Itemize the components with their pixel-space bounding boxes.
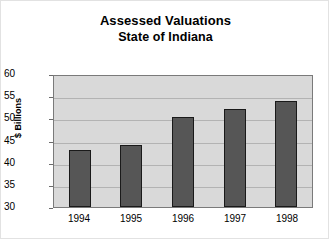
bar <box>120 145 142 207</box>
bar-series <box>54 76 312 207</box>
x-axis-tick-label: 1998 <box>257 213 317 224</box>
x-axis-tick-label: 1997 <box>205 213 265 224</box>
bar <box>224 109 246 207</box>
bar-slot <box>209 76 261 207</box>
chart-title: Assessed Valuations State of Indiana <box>1 13 330 45</box>
y-axis-tick-label: 50 <box>0 112 15 123</box>
y-axis-tick-label: 40 <box>0 157 15 168</box>
x-axis-tick-label: 1994 <box>49 213 109 224</box>
y-axis-tick-label: 55 <box>0 90 15 101</box>
x-axis-tick-label: 1996 <box>153 213 213 224</box>
y-axis-tick-label: 35 <box>0 179 15 190</box>
x-axis-tick-label: 1995 <box>101 213 161 224</box>
bar <box>69 150 91 207</box>
chart-title-line2: State of Indiana <box>1 29 330 45</box>
bar <box>172 117 194 207</box>
chart-title-line1: Assessed Valuations <box>1 13 330 29</box>
bar-slot <box>54 76 106 207</box>
bar <box>275 101 297 207</box>
y-axis-tick-label: 30 <box>0 201 15 212</box>
y-axis-tick-label: 60 <box>0 68 15 79</box>
plot-area <box>53 75 313 208</box>
bar-slot <box>260 76 312 207</box>
y-axis-tick-mark <box>49 208 53 209</box>
bar-slot <box>106 76 158 207</box>
y-axis-tick-label: 45 <box>0 135 15 146</box>
chart-frame: Assessed Valuations State of Indiana $ B… <box>0 0 329 239</box>
bar-slot <box>157 76 209 207</box>
